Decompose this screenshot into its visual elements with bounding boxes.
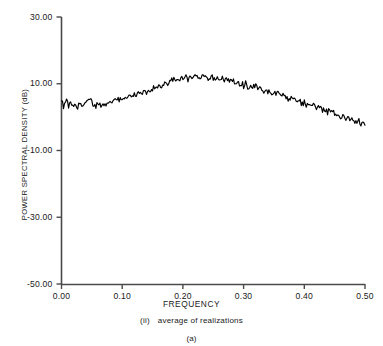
y-axis-tick-label: -30.00 [0,212,53,222]
psd-data-curve [62,75,366,126]
figure-subcaption-numeral: (ii) [140,316,150,325]
figure-subcaption: (ii)average of realizations [0,316,383,325]
axes [62,17,366,285]
figure-subcaption-text: average of realizations [158,316,243,325]
y-axis-tick-label: 30.00 [0,12,53,22]
x-axis-title: FREQUENCY [0,299,383,309]
y-axis-tick-label: -50.00 [0,279,53,289]
y-axis-tick-label: 10.00 [0,78,53,88]
y-axis-tick-label: -10.00 [0,145,53,155]
psd-figure: POWER SPECTRAL DENSITY (dB) 30.0010.00-1… [0,0,383,346]
figure-label: (a) [0,334,383,343]
